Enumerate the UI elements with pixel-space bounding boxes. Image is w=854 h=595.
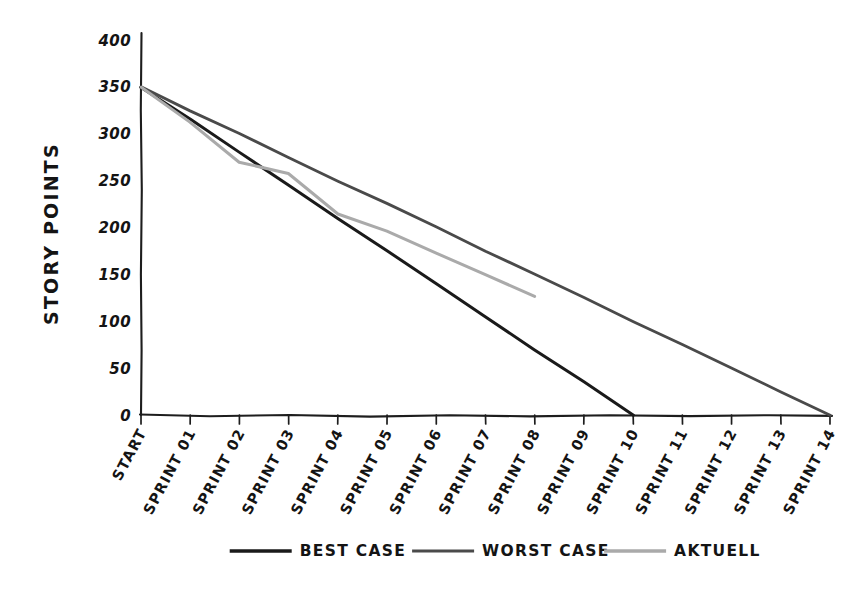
burndown-chart: STORY POINTS 050100150200250300350400 ST… xyxy=(0,0,854,595)
x-tick-label: SPRINT 11 xyxy=(632,426,691,517)
x-tick-label: SPRINT 02 xyxy=(189,426,248,517)
legend-label-aktuell: AKTUELL xyxy=(674,542,761,560)
x-tick-label: SPRINT 06 xyxy=(386,426,445,517)
y-axis-title: STORY POINTS xyxy=(40,142,62,325)
x-tick-label: SPRINT 08 xyxy=(485,426,544,517)
chart-canvas: STORY POINTS 050100150200250300350400 ST… xyxy=(0,0,854,595)
y-tick-label: 250 xyxy=(98,172,131,190)
x-tick-label: SPRINT 10 xyxy=(583,426,642,517)
x-tick-label: START xyxy=(109,426,150,483)
x-tick-label: SPRINT 04 xyxy=(288,426,347,517)
y-tick-label: 0 xyxy=(120,407,131,425)
y-tick-label: 300 xyxy=(98,125,131,143)
series-group xyxy=(141,87,831,416)
legend-label-worst-case: WORST CASE xyxy=(482,542,609,560)
x-tick-label: SPRINT 14 xyxy=(780,426,839,517)
y-tick-label: 200 xyxy=(98,219,131,237)
y-tick-label: 400 xyxy=(97,32,131,50)
series-line-best-case xyxy=(141,87,634,415)
x-tick-label: SPRINT 05 xyxy=(337,426,396,517)
y-axis-tick-labels: 050100150200250300350400 xyxy=(97,32,131,425)
y-tick-label: 350 xyxy=(98,78,131,96)
x-tick-label: SPRINT 12 xyxy=(682,426,741,517)
y-axis-line xyxy=(141,33,142,415)
x-tick-label: SPRINT 07 xyxy=(436,426,495,517)
x-tick-label: SPRINT 01 xyxy=(140,426,199,517)
x-tick-label: SPRINT 03 xyxy=(239,426,298,517)
x-axis-ticks: STARTSPRINT 01SPRINT 02SPRINT 03SPRINT 0… xyxy=(109,415,839,517)
y-axis-title-label: STORY POINTS xyxy=(40,142,62,325)
x-tick-label: SPRINT 09 xyxy=(534,426,593,517)
x-tick-label: SPRINT 13 xyxy=(731,426,790,517)
series-line-aktuell xyxy=(141,87,534,296)
y-tick-label: 50 xyxy=(109,360,131,378)
series-line-worst-case xyxy=(141,87,830,416)
chart-legend: BEST CASEWORST CASEAKTUELL xyxy=(230,542,761,560)
y-tick-label: 100 xyxy=(98,313,131,331)
legend-label-best-case: BEST CASE xyxy=(300,542,406,560)
y-tick-label: 150 xyxy=(98,266,131,284)
